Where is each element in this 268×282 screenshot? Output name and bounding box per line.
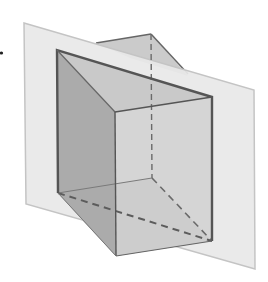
- prism-plane-figure: [0, 0, 268, 282]
- front-left-edge: [115, 112, 116, 256]
- marker-dot: [0, 51, 3, 54]
- front-face: [115, 97, 212, 256]
- diagram-canvas: [0, 0, 268, 282]
